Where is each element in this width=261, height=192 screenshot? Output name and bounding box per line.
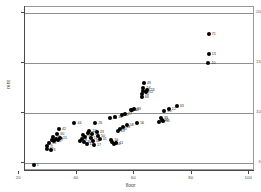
data-point-label: 42 <box>62 128 66 132</box>
data-point-label: 1 <box>37 164 39 168</box>
data-point-label: 3 <box>54 149 56 153</box>
data-point <box>175 104 179 108</box>
data-point <box>135 121 139 125</box>
data-point <box>132 107 136 111</box>
data-point <box>32 163 36 167</box>
gridline-y-10 <box>25 113 253 114</box>
data-point-label: 31 <box>103 138 107 142</box>
data-point <box>85 142 89 146</box>
data-point <box>167 107 171 111</box>
y-tick-mark <box>21 12 24 13</box>
y-tick-mark <box>21 112 24 113</box>
data-point <box>207 32 211 36</box>
x-tick-label-60: 60 <box>122 176 144 180</box>
gridline-y-20 <box>25 13 253 14</box>
x-axis-line <box>24 170 254 171</box>
data-point-label: 15 <box>63 137 67 141</box>
y-tick-label-5: 5 <box>243 160 261 164</box>
y-axis-title: rent <box>6 65 11 105</box>
data-point-label: 49 <box>147 82 151 86</box>
y-tick-mark <box>21 62 24 63</box>
scatter-plot-figure: 1259453304853376074215444051936611427225… <box>0 0 261 192</box>
data-point <box>98 137 102 141</box>
data-point <box>49 148 53 152</box>
data-point <box>92 143 96 147</box>
data-point <box>161 119 165 123</box>
data-point-label: 58 <box>130 124 134 128</box>
x-tick-mark <box>18 171 19 174</box>
x-tick-mark <box>248 171 249 174</box>
data-point-label: 13 <box>212 53 216 57</box>
y-tick-label-15: 15 <box>243 60 261 64</box>
x-tick-mark <box>76 171 77 174</box>
x-tick-label-20: 20 <box>7 176 29 180</box>
data-point <box>206 61 210 65</box>
y-tick-label-20: 20 <box>243 10 261 14</box>
y-tick-label-10: 10 <box>243 110 261 114</box>
data-point-label: 44 <box>77 122 81 126</box>
data-point <box>125 123 129 127</box>
x-tick-label-100: 100 <box>237 176 259 180</box>
data-point <box>93 121 97 125</box>
plot-area: 1259453304853376074215444051936611427225… <box>24 6 254 170</box>
gridline-y-15 <box>25 63 253 64</box>
data-point <box>207 52 211 56</box>
x-tick-mark <box>191 171 192 174</box>
data-point-label: 33 <box>180 105 184 109</box>
data-point <box>72 121 76 125</box>
data-point-label: 12 <box>172 108 176 112</box>
data-point-label: 11 <box>119 142 123 146</box>
x-axis-title: floor <box>0 183 261 188</box>
data-point <box>57 127 61 131</box>
data-point <box>90 132 94 136</box>
data-point-label: 52 <box>149 91 153 95</box>
data-point-label: 59 <box>137 108 141 112</box>
y-tick-mark <box>21 162 24 163</box>
data-point-label: 27 <box>128 113 132 117</box>
x-tick-mark <box>133 171 134 174</box>
data-point-label: 71 <box>212 33 216 37</box>
data-point-label: 26 <box>98 122 102 126</box>
data-point <box>108 116 112 120</box>
data-point-label: 55 <box>166 120 170 124</box>
x-tick-label-80: 80 <box>180 176 202 180</box>
y-axis-line <box>24 6 25 170</box>
gridline-y-5 <box>25 163 253 164</box>
data-point-label: 56 <box>140 122 144 126</box>
data-point-label: 17 <box>97 144 101 148</box>
data-point <box>142 81 146 85</box>
data-point-label: 10 <box>211 62 215 66</box>
x-tick-label-40: 40 <box>65 176 87 180</box>
